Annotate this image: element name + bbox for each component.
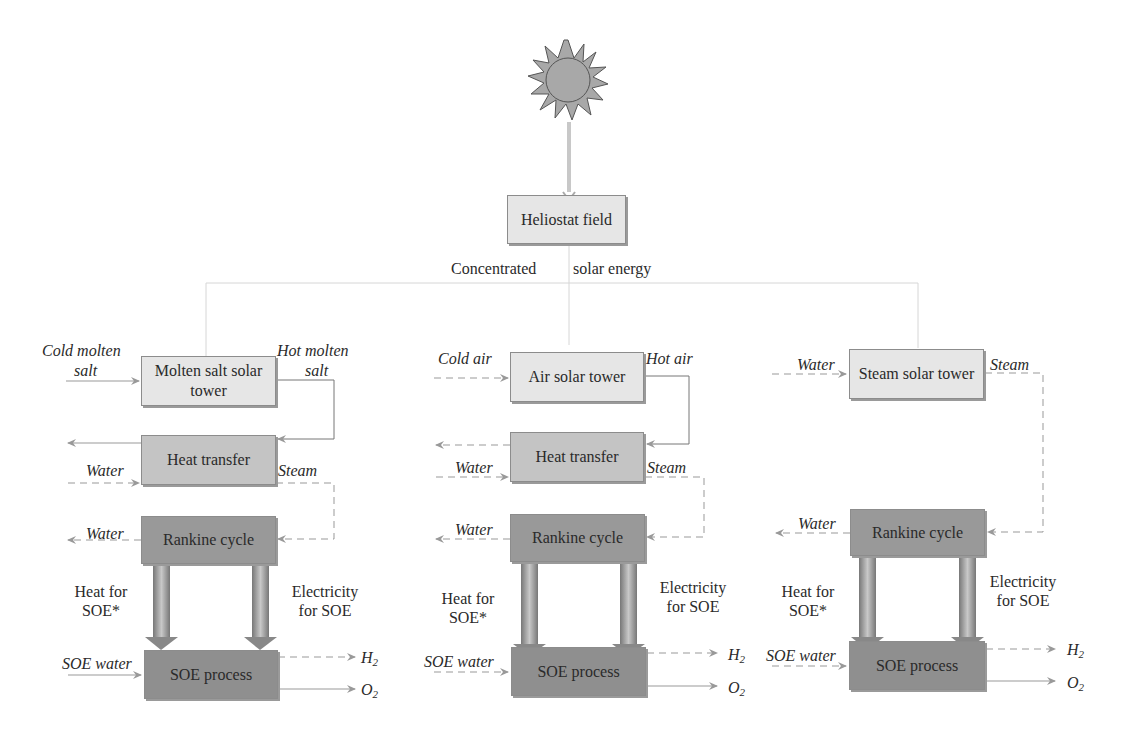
steam-solar-tower-box: Steam solar tower — [849, 349, 984, 399]
heat-transfer-box-1: Heat transfer — [141, 435, 276, 485]
ht-water-label-1: Water — [86, 461, 124, 480]
hot-air-label: Hot air — [646, 349, 693, 368]
o2-output-3: O2 — [1067, 673, 1084, 697]
rankine-water-label-1: Water — [86, 524, 124, 543]
o2-output-1: O2 — [361, 680, 378, 704]
soe-process-box-1: SOE process — [144, 650, 278, 699]
ht-steam-label-2: Steam — [647, 458, 686, 477]
o2-output-2: O2 — [728, 678, 745, 702]
soe-process-box-2: SOE process — [511, 647, 646, 696]
h2-output-2: H2 — [728, 645, 745, 669]
soe-water-label-1: SOE water — [62, 654, 132, 673]
tower-water-label-3: Water — [797, 355, 835, 374]
h2-output-1: H2 — [361, 648, 378, 672]
hot-molten-salt-label-2: salt — [305, 361, 328, 380]
ht-water-label-2: Water — [455, 458, 493, 477]
rankine-cycle-box-1: Rankine cycle — [141, 516, 276, 564]
molten-salt-tower-box: Molten salt solar tower — [141, 356, 276, 406]
heat-for-soe-label-3: Heat forSOE* — [772, 582, 844, 620]
air-solar-tower-box: Air solar tower — [510, 352, 644, 402]
rankine-water-label-2: Water — [455, 520, 493, 539]
heliostat-field-box: Heliostat field — [507, 195, 626, 244]
electricity-for-soe-label-2: Electricityfor SOE — [648, 578, 738, 616]
soe-process-box-3: SOE process — [849, 641, 985, 690]
rankine-cycle-box-2: Rankine cycle — [510, 514, 645, 562]
soe-water-label-2: SOE water — [424, 652, 494, 671]
electricity-for-soe-label-1: Electricityfor SOE — [280, 582, 370, 620]
heat-transfer-box-2: Heat transfer — [510, 432, 644, 482]
cold-molten-salt-label-2: salt — [74, 361, 97, 380]
cold-molten-salt-label: Cold molten — [42, 341, 121, 360]
soe-water-label-3: SOE water — [766, 646, 836, 665]
h2-output-3: H2 — [1067, 640, 1084, 664]
rankine-water-label-3: Water — [798, 514, 836, 533]
cold-air-label: Cold air — [438, 349, 492, 368]
sun-icon — [528, 40, 608, 120]
rankine-cycle-box-3: Rankine cycle — [850, 509, 985, 556]
hot-molten-salt-label: Hot molten — [277, 341, 349, 360]
energy-label-left: Concentrated — [451, 259, 536, 278]
electricity-for-soe-label-3: Electricityfor SOE — [978, 572, 1068, 610]
heat-for-soe-label-1: Heat forSOE* — [66, 582, 136, 620]
energy-label-right: solar energy — [573, 259, 651, 278]
ht-steam-label-1: Steam — [278, 461, 317, 480]
heat-for-soe-label-2: Heat forSOE* — [432, 589, 504, 627]
tower-steam-label-3: Steam — [990, 355, 1029, 374]
